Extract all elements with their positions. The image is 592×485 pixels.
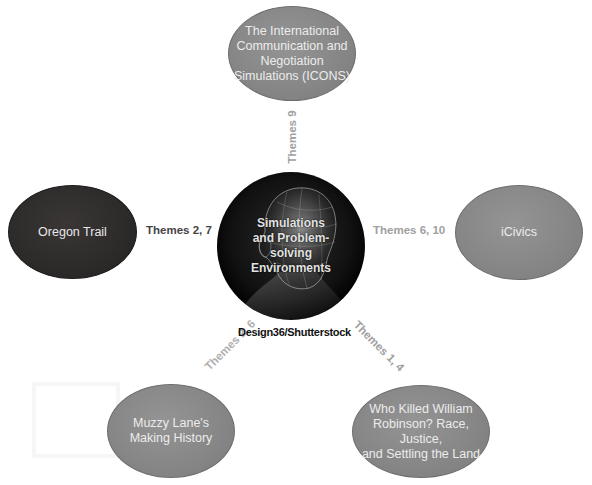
- node-muzzy-lane: Muzzy Lane's Making History: [107, 384, 235, 478]
- background-artifact: [32, 382, 120, 458]
- node-who-killed-label: Who Killed William Robinson? Race, Justi…: [353, 402, 489, 462]
- node-who-killed-william-robinson: Who Killed William Robinson? Race, Justi…: [352, 385, 490, 478]
- node-oregon-trail: Oregon Trail: [8, 185, 137, 279]
- theme-label-muzzy-lane: Themes 2, 6: [197, 312, 262, 377]
- node-icivics-label: iCivics: [501, 225, 537, 240]
- theme-label-icons: Themes 9: [286, 107, 298, 167]
- node-icons-label: The International Communication and Nego…: [234, 24, 350, 84]
- theme-label-oregon-trail: Themes 2, 7: [146, 224, 212, 236]
- node-oregon-trail-label: Oregon Trail: [38, 225, 107, 240]
- diagram-canvas: The International Communication and Nego…: [0, 0, 592, 485]
- node-muzzy-lane-label: Muzzy Lane's Making History: [130, 416, 213, 446]
- theme-label-icivics: Themes 6, 10: [373, 224, 445, 236]
- node-icivics: iCivics: [455, 185, 583, 280]
- hub-circle: Simulations and Problem- solving Environ…: [217, 172, 365, 320]
- node-icons: The International Communication and Nego…: [228, 6, 356, 101]
- image-credit: Design36/Shutterstock: [238, 326, 351, 338]
- hub-label: Simulations and Problem- solving Environ…: [217, 172, 365, 320]
- theme-label-who-killed: Themes 1, 4: [343, 310, 415, 382]
